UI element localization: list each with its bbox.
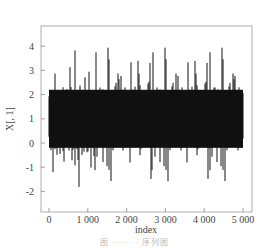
y-tick-label: 2	[29, 89, 34, 100]
data-series	[49, 48, 243, 187]
y-tick-label: 1	[29, 113, 34, 124]
x-axis-label: index	[135, 224, 157, 235]
y-tick-label: 4	[29, 41, 34, 52]
y-tick-label: 3	[29, 65, 34, 76]
y-tick-label: -2	[26, 186, 34, 197]
y-tick-label: 0	[29, 138, 34, 149]
y-axis-label: X[, 1]	[4, 107, 15, 131]
series-line	[49, 48, 243, 187]
x-tick-label: 1 000	[77, 214, 100, 225]
y-tick-label: -1	[26, 162, 34, 173]
x-tick-label: 5 000	[232, 214, 255, 225]
time-series-chart: 01 0002 0003 0004 0005 000 -2-101234 ind…	[0, 0, 269, 250]
x-axis: 01 0002 0003 0004 0005 000	[47, 208, 255, 225]
figure-caption: 图 ·· ·· ·· 序列图	[0, 236, 269, 247]
x-tick-label: 0	[47, 214, 52, 225]
y-axis: -2-101234	[26, 41, 45, 197]
x-tick-label: 3 000	[154, 214, 177, 225]
x-tick-label: 4 000	[193, 214, 216, 225]
